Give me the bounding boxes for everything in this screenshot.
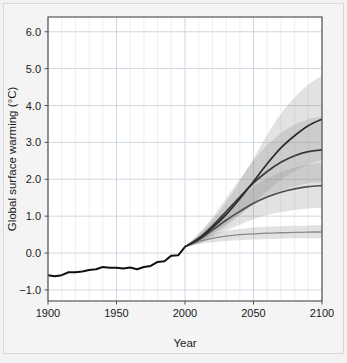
x-axis-tick-labels: 19001950200020502100 [36,307,334,319]
y-tick-label: 5.0 [26,63,41,75]
y-tick-label: 0.0 [26,247,41,259]
y-tick-label: 4.0 [26,100,41,112]
y-axis-tick-labels: −1.00.01.02.03.04.05.06.0 [19,26,41,296]
y-axis-title: Global surface warming (°C) [6,87,18,232]
global-warming-projection-chart: 19001950200020502100 −1.00.01.02.03.04.0… [0,0,347,363]
y-tick-label: 1.0 [26,210,41,222]
y-tick-label: 6.0 [26,26,41,38]
chart-figure: 19001950200020502100 −1.00.01.02.03.04.0… [0,0,347,363]
y-tick-label: 3.0 [26,136,41,148]
y-tick-label: −1.0 [19,284,41,296]
x-tick-label: 2000 [173,307,197,319]
x-tick-label: 2050 [241,307,265,319]
x-tick-label: 1900 [36,307,60,319]
y-tick-label: 2.0 [26,173,41,185]
x-tick-label: 1950 [104,307,128,319]
x-axis-title: Year [173,337,196,349]
x-tick-label: 2100 [310,307,334,319]
